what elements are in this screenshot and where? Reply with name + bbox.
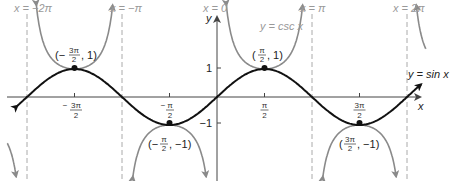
svg-text:2: 2 bbox=[262, 111, 267, 120]
point-minus-3pi-2 bbox=[72, 65, 78, 71]
svg-text:3π: 3π bbox=[345, 135, 355, 144]
x-axis-label: x bbox=[417, 100, 424, 112]
svg-text:, −1): , −1) bbox=[357, 138, 379, 150]
svg-text:(: ( bbox=[252, 49, 256, 61]
csc-label: y = csc x bbox=[259, 20, 304, 32]
svg-text:(−: (− bbox=[55, 49, 65, 61]
y-tick-1: 1 bbox=[206, 62, 212, 74]
svg-text:2: 2 bbox=[357, 111, 362, 120]
svg-text:π: π bbox=[161, 135, 167, 144]
tick-minus-3pi-2: − 3π 2 bbox=[63, 101, 82, 120]
svg-text:2: 2 bbox=[72, 55, 77, 64]
svg-text:2: 2 bbox=[348, 144, 353, 153]
svg-text:, 1): , 1) bbox=[81, 49, 97, 61]
y-tick-minus-1: −1 bbox=[199, 117, 212, 129]
label-pt3: ( π 2 , 1) bbox=[252, 46, 283, 64]
svg-text:2: 2 bbox=[74, 111, 79, 120]
svg-text:2: 2 bbox=[162, 144, 167, 153]
svg-text:(−: (− bbox=[148, 138, 158, 150]
svg-text:−: − bbox=[161, 101, 166, 110]
point-3pi-2 bbox=[357, 120, 363, 126]
svg-text:3π: 3π bbox=[355, 101, 365, 110]
asymptote-label-2pi: x = 2π bbox=[392, 2, 425, 14]
svg-text:−: − bbox=[63, 101, 68, 110]
point-minus-pi-2 bbox=[167, 120, 173, 126]
label-pt2: (− π 2 , −1) bbox=[148, 135, 191, 153]
label-pt4: ( 3π 2 , −1) bbox=[339, 135, 379, 153]
svg-text:2: 2 bbox=[260, 55, 265, 64]
asymptote-label-pi: x = π bbox=[299, 2, 326, 14]
tick-pi-2: π 2 bbox=[261, 101, 269, 120]
svg-text:, −1): , −1) bbox=[169, 138, 191, 150]
svg-text:(: ( bbox=[339, 138, 343, 150]
svg-text:π: π bbox=[259, 46, 265, 55]
asymptote-label-minus-2pi: x = −2π bbox=[13, 2, 53, 14]
svg-text:π: π bbox=[262, 101, 268, 110]
svg-text:, 1): , 1) bbox=[267, 49, 283, 61]
label-pt1: (− 3π 2 , 1) bbox=[55, 46, 97, 64]
sine-cosecant-graph: − 3π 2 − π 2 π 2 3π 2 1 −1 x y bbox=[0, 0, 451, 181]
asymptote-label-0: x = 0 bbox=[202, 2, 228, 14]
sin-label: y = sin x bbox=[407, 68, 449, 80]
svg-text:2: 2 bbox=[168, 111, 173, 120]
svg-text:3π: 3π bbox=[69, 46, 79, 55]
asymptote-label-minus-pi: x = −π bbox=[109, 2, 142, 14]
tick-minus-pi-2: − π 2 bbox=[161, 101, 174, 120]
tick-3pi-2: 3π 2 bbox=[354, 101, 366, 120]
point-pi-2 bbox=[262, 65, 268, 71]
svg-text:3π: 3π bbox=[71, 101, 81, 110]
svg-text:π: π bbox=[167, 101, 173, 110]
